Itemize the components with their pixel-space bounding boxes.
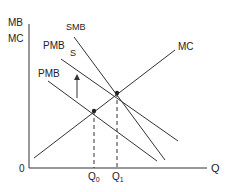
- arrowhead-icon: [74, 74, 80, 80]
- q1-label: Q1: [112, 171, 124, 183]
- s-label: S: [70, 48, 76, 58]
- y-axis-label-mc: MC: [8, 33, 24, 44]
- pmb-shifted-curve: [61, 59, 178, 141]
- pmb-label: PMB: [38, 68, 60, 79]
- x-axis-label-q: Q: [211, 162, 220, 174]
- equilibrium-point-q0: [92, 109, 96, 113]
- origin-label: 0: [19, 163, 25, 174]
- mc-curve: [34, 50, 175, 158]
- externality-diagram: MB MC SMB PMB S PMB MC 0 Q Q0 Q1: [0, 0, 229, 192]
- q0-label: Q0: [88, 171, 100, 183]
- smb-label: SMB: [66, 22, 86, 32]
- pmb-curve: [48, 81, 157, 161]
- equilibrium-point-q1: [115, 91, 119, 95]
- pmb-shifted-label: PMB: [43, 40, 65, 51]
- mc-label: MC: [178, 41, 194, 52]
- y-axis-label-mb: MB: [8, 17, 23, 28]
- smb-curve: [74, 37, 165, 160]
